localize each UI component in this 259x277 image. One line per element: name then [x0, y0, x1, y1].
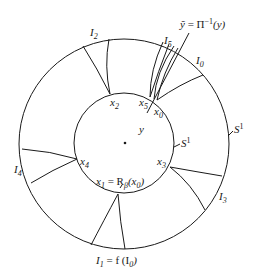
label-outer-s1: S1: [234, 122, 244, 135]
label-y: y: [138, 123, 144, 135]
label-i3: I3: [218, 190, 227, 205]
outer-circle: [19, 39, 229, 249]
annulus-diagram: ỹ = Π−1(y) I2 I5 I0 I4 I3 I1 = f (I0) x2…: [0, 0, 259, 277]
label-x2: x2: [109, 96, 119, 111]
interval-boundary-i2-left: [83, 46, 110, 94]
interval-boundary-i3-bottom: [170, 167, 205, 210]
label-i0: I0: [195, 54, 204, 69]
center-dot: [124, 142, 127, 145]
label-inner-s1: S1: [181, 136, 191, 149]
label-x0: x0: [153, 105, 163, 120]
interval-boundary-i1-left: [91, 194, 118, 245]
label-i1: I1 = f (I0): [95, 254, 137, 269]
label-i2: I2: [89, 26, 98, 41]
label-i4: I4: [13, 163, 22, 178]
interval-boundary-i4-top: [22, 149, 77, 159]
interval-boundary-i1-right: [118, 194, 125, 249]
interval-boundary-i2-right: [107, 39, 110, 94]
interval-boundary-i3-top: [170, 167, 222, 176]
interval-boundary-i4-bottom: [31, 159, 77, 183]
interval-boundary-i0-b: [157, 75, 203, 100]
pi-inverse-label: ỹ = Π−1(y): [179, 17, 226, 31]
s1-inner-pointer: [174, 144, 180, 147]
label-x3: x3: [156, 155, 166, 170]
